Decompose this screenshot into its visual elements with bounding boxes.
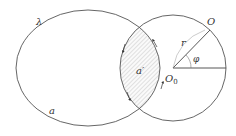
radius-line-r: [173, 30, 210, 68]
diagram-canvas: λ a a′ O r φ O0: [0, 0, 236, 136]
label-center-o0: O0: [165, 73, 178, 86]
radius-arc: [173, 30, 205, 68]
label-a: a: [49, 105, 55, 116]
label-lambda: λ: [35, 16, 42, 27]
angle-arc-phi: [186, 55, 191, 68]
label-center-o: O: [165, 73, 173, 84]
label-center-subscript: 0: [173, 78, 177, 86]
label-phi: φ: [193, 54, 200, 64]
label-r: r: [181, 37, 187, 48]
label-a-prime: a′: [136, 65, 145, 76]
label-point-o: O: [207, 16, 215, 27]
